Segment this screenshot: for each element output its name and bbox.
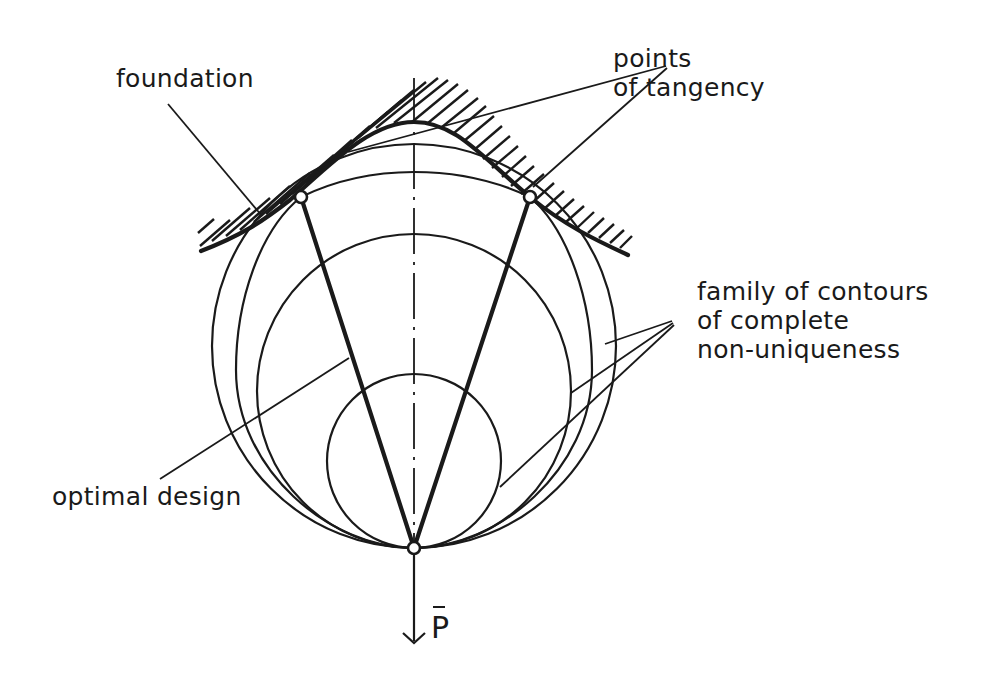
left-support-node	[295, 191, 307, 203]
diagram-figure: foundation points of tangency family of …	[0, 0, 1005, 690]
load-label: P	[431, 613, 449, 642]
right-bar	[414, 197, 530, 548]
optimal-design-leader	[160, 358, 349, 479]
optimal-design-contour	[301, 172, 530, 197]
points-of-tangency-label: points of tangency	[613, 44, 765, 102]
load-node	[408, 542, 420, 554]
right-support-node	[524, 191, 536, 203]
load-overbar	[433, 606, 445, 608]
optimal-design-label: optimal design	[52, 482, 242, 511]
small-contour	[327, 374, 501, 548]
contour-leader-2	[571, 323, 673, 393]
left-bar	[301, 197, 414, 548]
foundation-label: foundation	[116, 64, 254, 93]
foundation-leader	[168, 104, 262, 216]
family-of-contours-label: family of contours of complete non-uniqu…	[697, 277, 929, 364]
contour-leader-3	[500, 325, 674, 487]
